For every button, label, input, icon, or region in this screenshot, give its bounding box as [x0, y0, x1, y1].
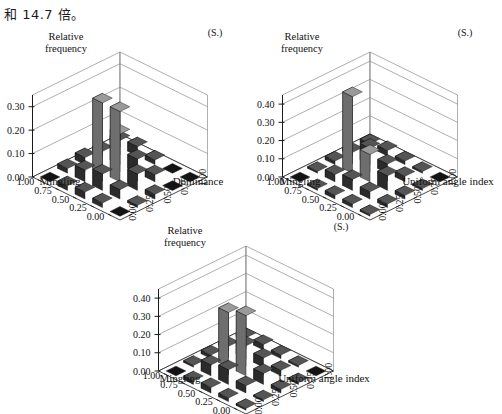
z-axis-title-line2: frequency: [281, 43, 324, 54]
z-tick-label-3: 0.30: [133, 311, 151, 322]
y-tick-label-4: 0.00: [213, 405, 231, 414]
z-tick-label-4: 0.40: [257, 99, 275, 110]
header-note: 和 14.7 倍。: [4, 4, 85, 23]
z-tick-label-1: 0.10: [7, 148, 25, 159]
y-tick-label-3: 0.25: [69, 202, 87, 213]
x-axis-title: Dominance: [173, 175, 224, 187]
z-tick-label-1: 0.10: [257, 153, 275, 164]
chart-panel-1: 0.000.100.200.30Relativefrequency(S.)1.0…: [2, 22, 252, 212]
z-axis-title-line2: frequency: [45, 43, 88, 54]
bar-face-front: [110, 107, 120, 182]
z-tick-label-3: 0.30: [7, 101, 25, 112]
bar-face-front: [219, 308, 229, 367]
z-tick-label-2: 0.20: [7, 125, 25, 136]
chart-mingling-uniformangle-b: 0.000.100.200.300.40Relativefrequency(S.…: [128, 212, 378, 412]
figure-root: 和 14.7 倍。 0.000.100.200.30Relativefreque…: [0, 0, 502, 414]
chart-mingling-dominance: 0.000.100.200.30Relativefrequency(S.)1.0…: [2, 22, 252, 212]
z-tick-label-3: 0.30: [257, 117, 275, 128]
z-axis-title-line1: Relative: [49, 31, 84, 42]
z-axis-title-line2: frequency: [164, 237, 207, 248]
z-tick-label-4: 0.40: [133, 293, 151, 304]
x-tick-label-1: 0.25: [144, 195, 155, 213]
y-axis-title: Mingling: [160, 372, 201, 384]
corner-tag: (S.): [208, 27, 223, 39]
z-tick-label-1: 0.10: [133, 347, 151, 358]
corner-tag: (S.): [334, 221, 349, 233]
z-axis-title-line1: Relative: [285, 31, 320, 42]
y-axis-title: Mingling: [40, 175, 81, 187]
y-axis-title: Mingling: [280, 175, 321, 187]
chart-mingling-uniformangle-a: 0.000.100.200.300.40Relativefrequency(S.…: [252, 22, 502, 212]
y-tick-label-2: 0.50: [52, 194, 70, 205]
x-tick-label-1: 0.25: [394, 195, 405, 213]
x-axis-title: Uniform angle index: [402, 175, 494, 187]
y-tick-label-2: 0.50: [178, 388, 196, 399]
chart-panel-2: 0.000.100.200.300.40Relativefrequency(S.…: [252, 22, 502, 212]
bar-face-front: [343, 92, 353, 173]
bar-face-front: [93, 98, 103, 173]
y-tick-label-0: 1.00: [143, 370, 161, 381]
chart-panel-3: 0.000.100.200.300.40Relativefrequency(S.…: [128, 212, 378, 412]
bar-face-front: [236, 311, 246, 376]
y-tick-label-3: 0.25: [195, 396, 213, 407]
x-tick-label-2: 0.50: [412, 186, 423, 204]
y-tick-label-0: 1.00: [17, 176, 35, 187]
x-tick-label-0: 0.00: [377, 203, 388, 221]
x-tick-label-1: 0.25: [270, 389, 281, 407]
x-axis-title: Uniform angle index: [278, 372, 370, 384]
y-tick-label-4: 0.00: [87, 211, 105, 222]
x-tick-label-0: 0.00: [253, 397, 264, 414]
y-tick-label-2: 0.50: [302, 194, 320, 205]
corner-tag: (S.): [458, 27, 473, 39]
z-axis-title-line1: Relative: [168, 225, 203, 236]
z-tick-label-2: 0.20: [257, 135, 275, 146]
z-tick-label-2: 0.20: [133, 329, 151, 340]
bar-face-front: [360, 150, 370, 182]
x-tick-label-2: 0.50: [162, 186, 173, 204]
